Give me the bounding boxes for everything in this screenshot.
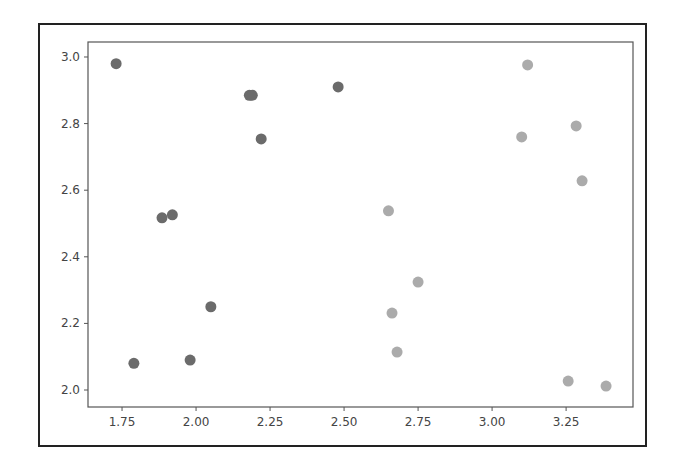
data-point-cluster-dark bbox=[157, 212, 168, 223]
scatter-plot: 1.752.002.252.502.753.003.25 2.02.22.42.… bbox=[0, 0, 686, 473]
y-tick-label: 2.0 bbox=[61, 383, 80, 397]
data-point-cluster-light bbox=[522, 59, 533, 70]
x-tick-label: 2.75 bbox=[405, 415, 432, 429]
data-point-cluster-dark bbox=[205, 301, 216, 312]
data-point-cluster-dark bbox=[128, 358, 139, 369]
data-points bbox=[111, 58, 612, 391]
axes-box bbox=[88, 42, 633, 407]
x-tick-label: 1.75 bbox=[109, 415, 136, 429]
data-point-cluster-dark bbox=[167, 209, 178, 220]
x-tick-label: 3.00 bbox=[479, 415, 506, 429]
y-tick-label: 2.4 bbox=[61, 250, 80, 264]
data-point-cluster-light bbox=[516, 131, 527, 142]
data-point-cluster-light bbox=[577, 175, 588, 186]
data-point-cluster-dark bbox=[185, 355, 196, 366]
data-point-cluster-dark bbox=[247, 90, 258, 101]
data-point-cluster-light bbox=[383, 205, 394, 216]
axes-border bbox=[88, 42, 633, 407]
y-tick-label: 3.0 bbox=[61, 50, 80, 64]
y-tick-label: 2.6 bbox=[61, 183, 80, 197]
data-point-cluster-dark bbox=[256, 133, 267, 144]
y-axis: 2.02.22.42.62.83.0 bbox=[61, 50, 88, 397]
x-tick-label: 2.50 bbox=[331, 415, 358, 429]
data-point-cluster-dark bbox=[111, 58, 122, 69]
x-tick-label: 2.00 bbox=[183, 415, 210, 429]
y-tick-label: 2.2 bbox=[61, 316, 80, 330]
x-axis: 1.752.002.252.502.753.003.25 bbox=[109, 407, 580, 429]
y-tick-label: 2.8 bbox=[61, 117, 80, 131]
data-point-cluster-light bbox=[571, 120, 582, 131]
data-point-cluster-dark bbox=[333, 81, 344, 92]
x-tick-label: 3.25 bbox=[553, 415, 580, 429]
data-point-cluster-light bbox=[413, 277, 424, 288]
data-point-cluster-light bbox=[392, 347, 403, 358]
x-tick-label: 2.25 bbox=[257, 415, 284, 429]
data-point-cluster-light bbox=[387, 308, 398, 319]
data-point-cluster-light bbox=[601, 381, 612, 392]
data-point-cluster-light bbox=[563, 376, 574, 387]
